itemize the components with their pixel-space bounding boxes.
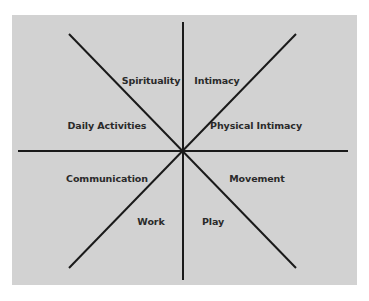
sector-label-spirituality: Spirituality xyxy=(122,75,181,86)
sector-label-intimacy: Intimacy xyxy=(194,75,239,86)
sector-label-communication: Communication xyxy=(66,173,148,184)
sector-label-physical-intimacy: Physical Intimacy xyxy=(210,120,302,131)
divider-lines xyxy=(0,0,369,301)
sector-label-daily-activities: Daily Activities xyxy=(68,120,147,131)
sector-label-play: Play xyxy=(202,216,224,227)
sector-label-work: Work xyxy=(137,216,164,227)
sector-label-movement: Movement xyxy=(229,173,284,184)
